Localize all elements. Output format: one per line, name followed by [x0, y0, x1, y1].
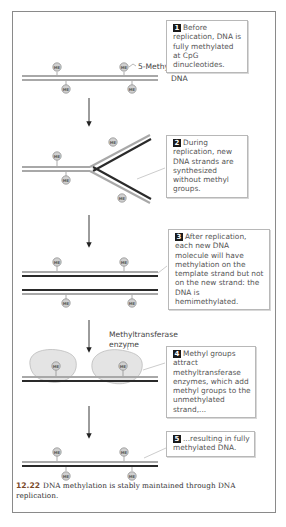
step-4-badge: 4: [173, 350, 181, 358]
enzyme-2: [92, 350, 142, 384]
step-2-text: During replication, new DNA strands are …: [173, 138, 233, 193]
label-dna: DNA: [171, 74, 188, 83]
label-enzyme-line2: enzyme: [109, 340, 139, 349]
step-5-badge: 5: [173, 435, 181, 443]
step-3-badge: 3: [175, 233, 183, 241]
step-5-text: ...resulting in fully methylated DNA.: [173, 434, 250, 452]
caption-text: DNA methylation is stably maintained thr…: [16, 481, 235, 500]
stage-3-hemimethylated: [22, 258, 167, 307]
label-enzyme-line1: Methyltransferase: [109, 330, 178, 339]
step-1-text: Before replication, DNA is fully methyla…: [173, 23, 241, 69]
step-1-callout: 1Before replication, DNA is fully methyl…: [166, 20, 248, 73]
step-3-callout: 3After replication, each new DNA molecul…: [168, 229, 270, 310]
figure-number: 12.22: [16, 481, 40, 490]
step-1-badge: 1: [173, 24, 181, 32]
step-5-callout: 5...resulting in fully methylated DNA.: [166, 431, 255, 457]
stage-5-fully-methylated: [22, 448, 166, 480]
step-3-text: After replication, each new DNA molecule…: [175, 232, 263, 306]
step-4-callout: 4Methyl groups attract methyltransferase…: [166, 346, 256, 418]
step-2-badge: 2: [173, 139, 181, 147]
step-2-callout: 2During replication, new DNA strands are…: [166, 135, 248, 198]
step-4-text: Methyl groups attract methyltransferase …: [173, 349, 251, 414]
stage-4-methyltransferase: [22, 345, 165, 384]
figure-caption: 12.22DNA methylation is stably maintaine…: [16, 481, 272, 501]
stage-2-replication-fork: [22, 135, 165, 203]
